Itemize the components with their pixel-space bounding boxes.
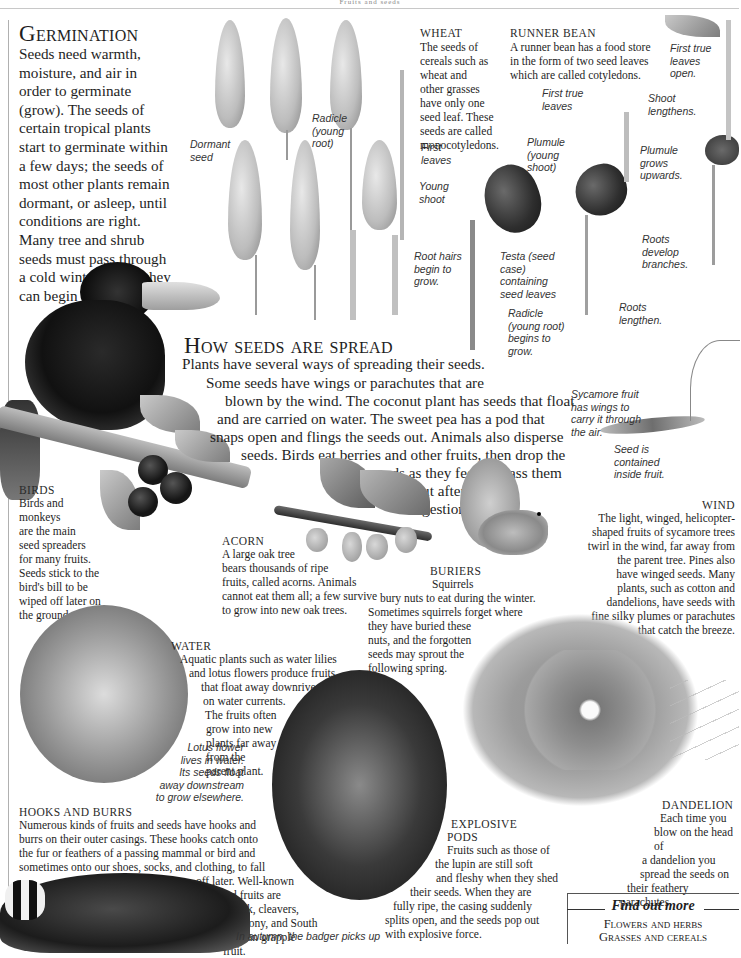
- label-dormant-seed: Dormant seed: [190, 138, 230, 163]
- wheat-seed-stage2: [270, 18, 302, 133]
- link-flowers-and-herbs[interactable]: Flowers and herbs: [567, 917, 739, 931]
- label-testa: Testa (seed case) containing seed leaves: [500, 250, 556, 300]
- how-spread-line: blown by the wind. The coconut plant has…: [225, 392, 725, 411]
- label-seed-contained: Seed is contained inside fruit.: [614, 443, 665, 481]
- label-plumule: Plumule (young shoot): [527, 136, 565, 174]
- badger-head: [5, 880, 45, 920]
- explosive-body: Fruits such as those of the lupin are st…: [385, 843, 585, 941]
- bean-shoot: [726, 20, 731, 140]
- sycamore-falling-fruit: [690, 340, 740, 421]
- wheat-seed-stage4: [228, 140, 262, 260]
- badger-caption: In autumn, the badger picks up: [236, 930, 380, 943]
- wheat-root: [255, 255, 257, 315]
- top-rule: [0, 8, 739, 9]
- bean-plumule: [624, 112, 629, 182]
- runner-bean-heading: RUNNER BEAN: [510, 27, 596, 40]
- root-hairs: [350, 230, 356, 320]
- germination-heading: Germination: [19, 22, 138, 46]
- wheat-body: The seeds of cereals such as wheat and o…: [420, 40, 510, 152]
- birds-body: Birds and monkeys are the main seed spre…: [19, 496, 129, 622]
- label-roots-lengthen: Roots lengthen.: [619, 301, 662, 326]
- label-shoot-lengthens: Shoot lengthens.: [648, 92, 696, 117]
- wheat-shoot: [400, 70, 404, 240]
- how-spread-body: Plants have several ways of spreading th…: [160, 355, 490, 392]
- wheat-seed-dormant: [215, 20, 245, 128]
- runner-bean-seedling: [705, 135, 739, 165]
- link-grasses-and-cereals[interactable]: Grasses and cereals: [567, 930, 739, 944]
- label-root-hairs: Root hairs begin to grow.: [414, 250, 462, 288]
- radicle-root: [286, 130, 288, 160]
- blackberry: [160, 472, 192, 504]
- bean-radicle: [470, 220, 475, 350]
- running-head: Fruits and seeds: [300, 0, 440, 6]
- wheat-heading: WHEAT: [420, 27, 462, 40]
- label-young-shoot: Young shoot: [419, 180, 449, 205]
- title-rule-right: [704, 909, 739, 910]
- label-first-true-leaves-open: First true leaves open.: [670, 42, 711, 80]
- wheat-seed-stage5: [290, 140, 320, 270]
- find-out-more-header: Find out more: [567, 898, 739, 914]
- blackberry: [128, 487, 158, 517]
- bramble-leaf: [140, 395, 200, 433]
- label-first-true-leaves: First true leaves: [542, 87, 583, 112]
- label-roots-develop: Roots develop branches.: [642, 233, 688, 271]
- explosive-heading-1: EXPLOSIVE: [451, 818, 517, 831]
- label-sycamore-fruit: Sycamore fruit has wings to carry it thr…: [571, 388, 641, 438]
- dandelion-seeds-blowing: [670, 680, 739, 760]
- lotus-caption: Lotus flower lives in water. Its seeds f…: [150, 741, 244, 804]
- label-plumule-grows: Plumule grows upwards.: [640, 144, 683, 182]
- squirrel: [478, 510, 548, 555]
- find-out-more-title: Find out more: [567, 898, 739, 914]
- runner-bean-body: A runner bean has a food store in the fo…: [510, 40, 680, 82]
- bean-branching-roots: [712, 165, 715, 265]
- dandelion-seedhead: [520, 650, 660, 770]
- wheat-seed-stage6: [362, 140, 397, 230]
- bean-roots: [585, 215, 588, 315]
- label-radicle-begins: Radicle (young root) begins to grow.: [508, 307, 565, 357]
- root-hairs: [392, 235, 398, 315]
- label-radicle: Radicle (young root): [312, 112, 347, 150]
- wheat-root: [314, 265, 316, 320]
- bean-true-leaf: [665, 15, 720, 37]
